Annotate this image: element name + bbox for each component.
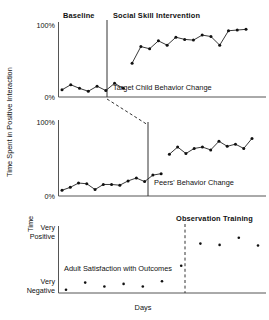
panel3-ytick-bottom-line1: Very — [41, 277, 56, 286]
data-point — [102, 183, 105, 186]
data-point — [151, 174, 154, 177]
series-line — [169, 138, 252, 154]
panel3-y-axis-label: Time — [26, 216, 35, 232]
panel3-ytick-top-line2: Positive — [30, 232, 55, 241]
multi-panel-chart: Time Spent in Positive Interaction Time … — [0, 0, 269, 320]
data-point — [192, 39, 195, 42]
data-point — [238, 236, 241, 239]
data-point — [61, 88, 64, 91]
data-point — [148, 47, 151, 50]
data-point — [168, 153, 171, 156]
phase-label-observation-training: Observation Training — [176, 214, 253, 223]
data-point — [77, 182, 80, 185]
data-point — [176, 146, 179, 149]
data-point — [227, 29, 230, 32]
data-point — [193, 147, 196, 150]
data-point — [218, 44, 221, 47]
data-point — [104, 89, 107, 92]
panel3-ytick-top-line1: Very — [41, 223, 56, 232]
phase-label-intervention: Social Skill Intervention — [113, 11, 200, 20]
data-point — [143, 180, 146, 183]
phase-label-baseline: Baseline — [63, 11, 95, 20]
data-point — [96, 85, 99, 88]
data-point — [183, 38, 186, 41]
data-point — [201, 34, 204, 37]
data-point — [157, 39, 160, 42]
data-point — [218, 244, 221, 247]
panel2-caption: Peers' Behavior Change — [154, 178, 234, 187]
data-point — [85, 182, 88, 185]
data-point — [160, 172, 163, 175]
data-point — [127, 179, 130, 182]
data-point — [103, 285, 106, 288]
data-point — [113, 82, 116, 85]
data-point — [245, 28, 248, 31]
series-line — [62, 174, 161, 191]
data-point — [242, 147, 245, 150]
figure-root: Time Spent in Positive Interaction Time … — [0, 0, 269, 320]
data-point — [217, 140, 220, 143]
data-point — [84, 281, 87, 284]
data-point — [142, 285, 145, 288]
x-axis-label: Days — [135, 303, 152, 312]
data-point — [122, 283, 125, 286]
panel1-ytick-top: 100% — [37, 21, 56, 30]
data-point — [234, 143, 237, 146]
data-point — [135, 177, 138, 180]
data-point — [226, 145, 229, 148]
data-point — [61, 189, 64, 192]
panel3-caption: Adult Satisfaction with Outcomes — [64, 264, 172, 273]
data-point — [65, 288, 68, 291]
data-point — [87, 90, 90, 93]
data-point — [236, 29, 239, 32]
panel-target-child: Baseline Social Skill Intervention 100% … — [37, 11, 266, 102]
data-point — [110, 183, 113, 186]
phase-connector — [107, 99, 148, 125]
panel3-ytick-bottom-line2: Negative — [27, 286, 55, 295]
panel1-caption: Target Child Behavior Change — [113, 83, 212, 92]
data-point — [201, 146, 204, 149]
panel2-ytick-top: 100% — [37, 118, 56, 127]
data-point — [199, 242, 202, 245]
data-point — [69, 186, 72, 189]
data-point — [161, 280, 164, 283]
data-point — [118, 184, 121, 187]
data-point — [166, 44, 169, 47]
panel1-ytick-bottom: 0% — [45, 93, 56, 102]
data-point — [78, 87, 81, 90]
data-point — [69, 83, 72, 86]
data-point — [139, 45, 142, 48]
panel-adult-satisfaction: Observation Training Very Positive Very … — [27, 214, 266, 295]
data-point — [94, 188, 97, 191]
data-point — [257, 244, 260, 247]
series-line — [132, 29, 246, 63]
data-point — [122, 87, 125, 90]
panel-peers: 100% 0% Peers' Behavior Change — [37, 118, 266, 201]
data-point — [174, 36, 177, 39]
data-point — [184, 152, 187, 155]
data-point — [209, 35, 212, 38]
panel2-ytick-bottom: 0% — [45, 192, 56, 201]
data-point — [131, 62, 134, 65]
data-point — [251, 137, 254, 140]
data-point — [209, 148, 212, 151]
data-point — [180, 264, 183, 267]
y-axis-label: Time Spent in Positive Interaction — [5, 67, 14, 177]
